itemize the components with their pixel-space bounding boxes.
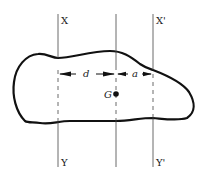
label-g: G xyxy=(104,89,112,100)
label-y-prime: Y' xyxy=(155,157,165,168)
parallel-axis-diagram: X X' Y Y' d a G xyxy=(0,0,206,178)
label-d: d xyxy=(83,68,89,79)
label-y: Y xyxy=(60,157,68,168)
centroid-dot xyxy=(113,91,119,97)
label-a: a xyxy=(132,68,138,79)
label-x: X xyxy=(61,15,69,26)
label-x-prime: X' xyxy=(156,15,166,26)
body-outline xyxy=(13,51,193,124)
